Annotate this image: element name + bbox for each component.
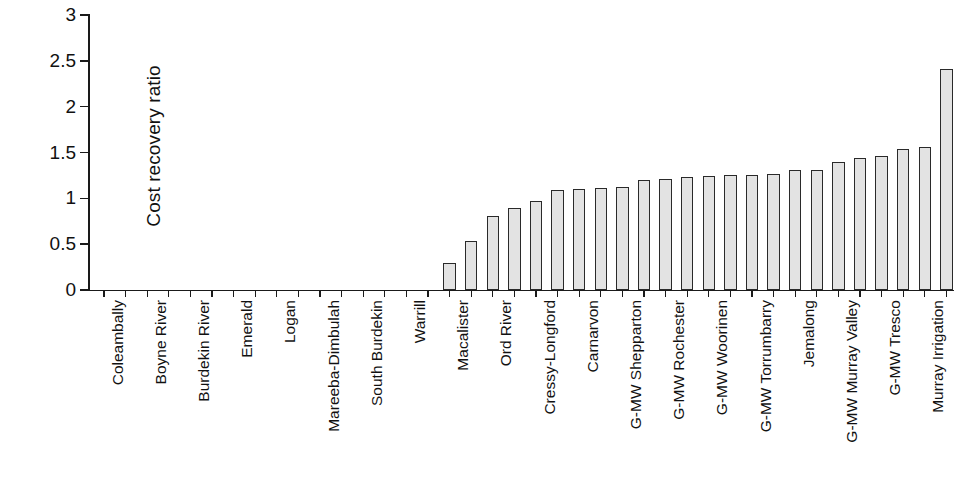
bar xyxy=(854,158,867,290)
bar xyxy=(638,180,651,290)
x-axis-tick-label: Coleambally xyxy=(110,300,126,385)
x-axis-tick-label: G-MW Tresco xyxy=(887,300,903,396)
x-axis-tick xyxy=(384,290,385,297)
x-axis-tick-label: Boyne River xyxy=(153,300,169,384)
x-axis-tick xyxy=(795,290,796,297)
bar xyxy=(789,170,802,290)
chart-figure: Cost recovery ratio 00.511.522.53 Coleam… xyxy=(0,0,960,497)
x-axis-tick-label: G-MW Rochester xyxy=(671,300,687,420)
x-axis-tick xyxy=(816,290,817,297)
bar xyxy=(724,175,737,290)
x-axis-tick xyxy=(492,290,493,297)
bar xyxy=(703,176,716,290)
x-axis-tick xyxy=(557,290,558,297)
x-axis-tick xyxy=(147,290,148,297)
x-axis-tick xyxy=(211,290,212,297)
x-axis-tick-label: G-MW Torrumbarry xyxy=(758,300,774,432)
x-axis-tick xyxy=(125,290,126,297)
x-axis-tick xyxy=(276,290,277,297)
x-axis-tick-label: Logan xyxy=(282,300,298,343)
bar xyxy=(940,69,953,290)
bar xyxy=(746,175,759,291)
x-axis-tick xyxy=(233,290,234,297)
x-axis-tick xyxy=(622,290,623,297)
bar xyxy=(616,187,629,290)
x-axis-tick-label: G-MW Murray Valley xyxy=(844,300,860,443)
x-axis-tick xyxy=(838,290,839,297)
x-axis-tick xyxy=(924,290,925,297)
bar xyxy=(919,147,932,290)
x-axis-tick-label: G-MW Shepparton xyxy=(628,300,644,429)
x-axis-tick xyxy=(449,290,450,297)
bar xyxy=(875,156,888,290)
x-axis-tick xyxy=(665,290,666,297)
x-axis-tick-label: Mareeba-Dimbulah xyxy=(326,300,342,432)
bar xyxy=(681,177,694,290)
x-axis-tick-label: Burdekin River xyxy=(196,300,212,402)
x-axis-tick xyxy=(687,290,688,297)
bar xyxy=(487,216,500,290)
x-axis-tick xyxy=(946,290,947,297)
x-axis-tick xyxy=(600,290,601,297)
bar xyxy=(551,190,564,290)
bar xyxy=(767,174,780,290)
x-axis-tick xyxy=(341,290,342,297)
x-axis-tick xyxy=(535,290,536,297)
x-axis-tick-label: G-MW Woorinen xyxy=(714,300,730,415)
bar xyxy=(832,162,845,290)
x-axis-tick-label: Emerald xyxy=(239,300,255,358)
bar xyxy=(465,241,478,291)
x-axis-tick xyxy=(406,290,407,297)
x-axis-tick xyxy=(427,290,428,297)
x-axis-tick xyxy=(730,290,731,297)
x-axis-tick xyxy=(514,290,515,297)
x-axis-tick xyxy=(319,290,320,297)
x-axis-tick-label: Carnarvon xyxy=(585,300,601,372)
x-axis-tick-label: Warrill xyxy=(412,300,428,343)
x-axis-tick-label: Ord River xyxy=(498,300,514,366)
x-axis-tick-label: Cressy-Longford xyxy=(542,300,558,415)
x-axis-tick xyxy=(103,290,104,297)
bar xyxy=(897,149,910,290)
x-axis-tick-label: Murray Irrigation xyxy=(930,300,946,413)
bar xyxy=(659,179,672,290)
x-axis-tick xyxy=(471,290,472,297)
bar xyxy=(595,188,608,290)
x-axis-tick xyxy=(255,290,256,297)
x-axis-tick-label: Macalister xyxy=(455,300,471,371)
x-axis-tick xyxy=(168,290,169,297)
x-axis-tick-label: South Burdekin xyxy=(369,300,385,406)
bar xyxy=(530,201,543,290)
x-axis-tick xyxy=(881,290,882,297)
x-axis-tick xyxy=(579,290,580,297)
x-axis-tick-label: Jemalong xyxy=(801,300,817,367)
bar xyxy=(573,189,586,290)
x-axis-tick xyxy=(859,290,860,297)
x-axis-tick xyxy=(363,290,364,297)
bar xyxy=(811,170,824,290)
bar xyxy=(443,263,456,290)
x-axis-tick xyxy=(751,290,752,297)
x-axis-tick xyxy=(708,290,709,297)
x-axis-tick xyxy=(298,290,299,297)
x-axis-tick xyxy=(643,290,644,297)
x-axis-tick xyxy=(903,290,904,297)
bar xyxy=(508,208,521,291)
bar-series xyxy=(0,0,960,290)
x-axis-tick xyxy=(190,290,191,297)
x-axis-tick xyxy=(773,290,774,297)
